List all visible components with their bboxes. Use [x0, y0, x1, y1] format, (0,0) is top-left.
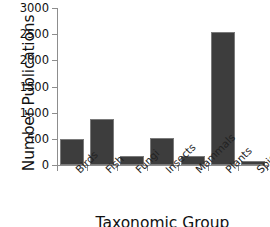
y-tick-label: 3000	[9, 1, 49, 15]
y-tick-label: 1500	[9, 80, 49, 94]
bar-slot	[238, 8, 268, 165]
bar-slot	[87, 8, 117, 165]
y-tick-mark	[52, 60, 57, 61]
plot-area: 050010001500200025003000	[57, 8, 268, 165]
bar-slot	[178, 8, 208, 165]
bars-group	[57, 8, 268, 165]
bar-slot	[147, 8, 177, 165]
y-tick-mark	[52, 8, 57, 9]
y-tick-label: 2500	[9, 27, 49, 41]
bar-slot	[117, 8, 147, 165]
y-tick-mark	[52, 139, 57, 140]
y-tick-label: 0	[9, 158, 49, 172]
y-tick-label: 1000	[9, 106, 49, 120]
y-tick-label: 2000	[9, 53, 49, 67]
y-tick-mark	[52, 113, 57, 114]
y-tick-label: 500	[9, 132, 49, 146]
x-axis-title: Taxonomic Group	[57, 214, 268, 227]
x-axis-labels: BirdsFishFungiInsectsMammalsPlantsSpider…	[57, 167, 268, 215]
bar-slot	[57, 8, 87, 165]
bar-chart: Number Publications 05001000150020002500…	[0, 0, 270, 227]
y-tick-mark	[52, 87, 57, 88]
y-tick-mark	[52, 34, 57, 35]
